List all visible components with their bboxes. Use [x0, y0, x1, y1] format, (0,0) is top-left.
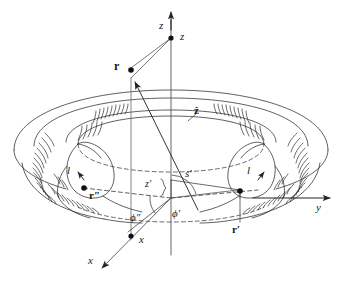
coil-winding-hatch-outer-right: [286, 133, 309, 204]
segment-z-prime-drop: [171, 180, 240, 198]
angle-phi-prime-label: ϕ′: [172, 208, 180, 219]
axis-z-point-label: z: [180, 31, 184, 42]
axis-x-arrow-label: x: [88, 255, 93, 266]
coil-winding-hatch-lower-right: [243, 184, 294, 214]
vector-r-label: r: [114, 60, 119, 72]
dot-r-prime: [237, 188, 243, 194]
loop-element-right-arrow: [258, 172, 264, 180]
coil-winding-hatch-inner-left: [93, 104, 128, 123]
axis-y-arrow-label: y: [316, 202, 321, 213]
toroidal-coil-diagram: z z r ẑ l l s′ z′ r″ ϕ″ ϕ′ y r′ x x: [0, 0, 343, 284]
axis-x-arrow: [102, 198, 171, 268]
coil-winding-hatch-inner-right-2: [240, 122, 264, 140]
loop-element-left-label: l: [67, 165, 70, 176]
z-hat-label: ẑ: [194, 105, 199, 116]
dot-r-double-prime: [81, 185, 87, 191]
coil-winding-hatch-inner-left-2: [78, 122, 102, 140]
segment-s-prime-label: s′: [185, 168, 192, 179]
loop-element-right-label: l: [247, 165, 250, 176]
vector-r-arrow: [135, 82, 198, 210]
dot-r-point: [128, 67, 134, 73]
axis-z-arrow-label: z: [159, 20, 163, 31]
coil-winding-hatch-outer-left: [33, 133, 56, 204]
torus-cut-face-right: [228, 142, 275, 198]
segment-z-prime-label: z′: [145, 179, 151, 189]
vector-r-double-prime-label: r″: [89, 190, 100, 201]
diagram-canvas: [0, 0, 343, 284]
angle-phi-double-prime-label: ϕ″: [130, 212, 140, 223]
brace-z-prime: [161, 179, 166, 196]
axis-x-point-label: x: [139, 234, 144, 245]
coil-winding-hatch-inner-right: [214, 104, 249, 123]
dot-z-point: [168, 35, 173, 40]
dot-x-point: [128, 233, 133, 238]
r-to-z-connector: [131, 38, 171, 78]
angle-arc-phi-double-prime: [150, 196, 155, 213]
loop-element-left-arrow: [78, 172, 84, 180]
angle-arc-phi-prime: [172, 175, 196, 194]
vector-r-prime-label: r′: [232, 224, 240, 235]
